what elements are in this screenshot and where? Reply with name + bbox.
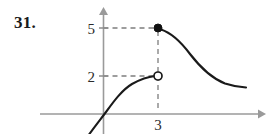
y-axis-arrow-icon [99,7,108,15]
curve-left-branch [88,76,155,134]
graph-canvas: 5 2 3 [0,0,271,134]
y-tick-label-2: 2 [88,69,96,85]
y-tick-label-5: 5 [88,21,96,37]
x-axis-arrow-icon [258,110,266,119]
x-tick-label-3: 3 [154,117,162,133]
filled-endpoint-marker [154,24,162,32]
figure-container: 31. 5 2 3 [0,0,271,134]
open-endpoint-marker [154,72,162,80]
curve-right-branch [161,30,246,88]
